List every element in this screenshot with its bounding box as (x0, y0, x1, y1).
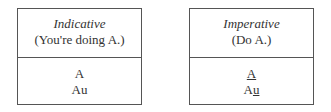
text-part: A (244, 82, 253, 97)
imperative-title: Imperative (190, 16, 313, 32)
indicative-title: Indicative (18, 16, 141, 32)
indicative-header: Indicative (You're doing A.) (18, 9, 141, 58)
indicative-box: Indicative (You're doing A.) A Au (17, 8, 142, 105)
imperative-header: Imperative (Do A.) (190, 9, 313, 58)
imperative-subtitle: (Do A.) (190, 32, 313, 48)
imperative-line-2: Au (190, 82, 313, 98)
indicative-body: A Au (18, 58, 141, 98)
indicative-line-2: Au (18, 82, 141, 98)
imperative-body: A Au (190, 58, 313, 98)
text-part: A (75, 66, 84, 81)
underlined-text-part: A (247, 66, 256, 81)
text-part: Au (72, 82, 88, 97)
underlined-text-part: u (253, 82, 260, 97)
imperative-line-1: A (190, 66, 313, 82)
imperative-box: Imperative (Do A.) A Au (189, 8, 314, 105)
indicative-subtitle: (You're doing A.) (18, 32, 141, 48)
indicative-line-1: A (18, 66, 141, 82)
